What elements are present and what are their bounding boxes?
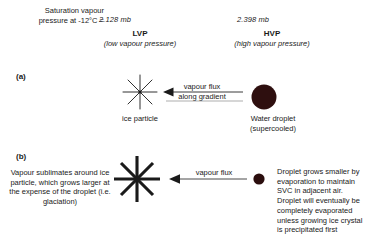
lvp-pressure-value: 2.128 mb	[99, 15, 131, 24]
panel-a-ice-particle-caption: ice particle	[98, 114, 182, 124]
panel-b-arrow-label: vapour flux	[178, 168, 250, 178]
ice-crystal-core	[138, 90, 141, 93]
panel-a-arrow-label-line2: along gradient	[160, 92, 244, 102]
panel-a-arrow-label-line1: vapour flux	[160, 82, 244, 92]
panel-b-right-description: Droplet grows smaller by evaporation to …	[277, 167, 369, 235]
water-droplet-icon	[253, 173, 264, 184]
hvp-expansion: (high vapour pressure)	[227, 39, 317, 49]
hvp-pressure-value: 2.398 mb	[237, 15, 269, 24]
saturation-vapour-pressure-label: Saturation vapour pressure at -12°C =	[18, 6, 104, 25]
panel-b-left-description: Vapour sublimates around ice particle, w…	[8, 168, 112, 207]
lvp-expansion: (low vapour pressure)	[95, 39, 185, 49]
ice-crystal-icon	[114, 156, 160, 202]
water-droplet-icon	[252, 85, 277, 110]
panel-b-letter: (b)	[16, 152, 26, 161]
panel-a-water-droplet-caption: Water droplet (supercooled)	[228, 114, 318, 133]
panel-a-letter: (a)	[16, 72, 26, 81]
hvp-abbreviation: HVP	[227, 29, 317, 38]
lvp-abbreviation: LVP	[95, 29, 185, 38]
ice-crystal-icon	[123, 75, 157, 109]
